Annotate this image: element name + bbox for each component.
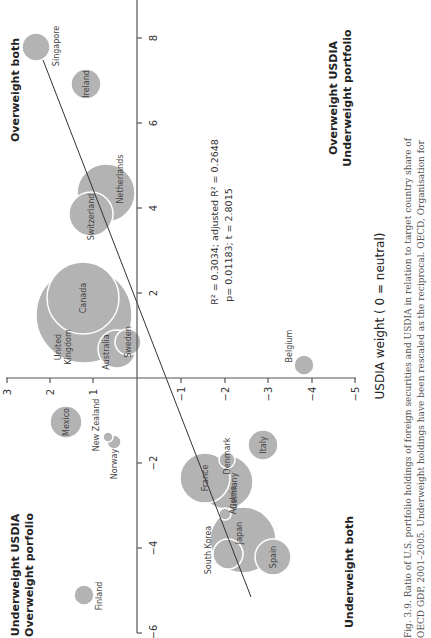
label-japan-text: Japan — [235, 522, 244, 545]
tick-label: −1 — [176, 387, 187, 402]
quadrant-overweight-usdia: Overweight USDIA — [327, 40, 340, 155]
tick-label: 1 — [88, 389, 99, 395]
tick-label: −5 — [350, 387, 361, 402]
label-denmark: Denmark — [223, 437, 232, 474]
label-switzerland: Switzerland — [87, 194, 96, 241]
bubble-belgium — [294, 355, 314, 375]
tick-label: 2 — [45, 389, 56, 395]
tick-label: 2 — [148, 290, 159, 296]
quadrant-overweight-portfolio: Overweight porfolio — [23, 513, 36, 637]
label-spain: Spain — [269, 546, 278, 568]
label-netherlands: Netherlands — [116, 155, 125, 204]
label-south-korea: South Korea — [204, 526, 213, 575]
quadrant-overweight-both: Overweight both — [9, 38, 22, 142]
label-canada: Canada — [79, 283, 88, 314]
label-italy: Italy — [259, 436, 268, 454]
bubble-finland — [74, 585, 94, 605]
quadrant-underweight-portfolio: Underweight portfolio — [341, 29, 354, 167]
tick-label: −4 — [148, 541, 159, 556]
label-finland: Finland — [95, 582, 104, 611]
label-united-kingdom-2: Kingdom — [64, 329, 73, 365]
label-mexico: Mexico — [62, 408, 71, 436]
usdia-ticks — [7, 378, 355, 383]
label-australia: Australia — [102, 334, 111, 369]
tick-label: 4 — [148, 205, 159, 211]
bubble-singapore — [22, 33, 50, 61]
quadrant-underweight-usdia: Underweight USDIA — [9, 513, 22, 636]
figure-caption: Fig. 3.9. Ratio of U.S. portfolio holdin… — [403, 137, 426, 638]
bubble-new-zealand — [103, 432, 113, 442]
caption-line-1: Fig. 3.9. Ratio of U.S. portfolio holdin… — [403, 137, 413, 638]
caption-line-2: OECD GDP, 2001–2005. Underweight holding… — [416, 140, 426, 638]
bubble-chart: 8 6 4 2 −2 −4 −6 3 2 1 −1 −2 −3 −4 −5 Si… — [0, 0, 431, 638]
tick-label: 6 — [148, 120, 159, 126]
label-singapore: Singapore — [52, 26, 61, 66]
tick-label: −4 — [307, 387, 318, 402]
tick-label: −2 — [220, 387, 231, 402]
tick-label: 8 — [148, 35, 159, 41]
usdia-axis-title: USDIA weight ( 0 = neutral) — [373, 233, 387, 400]
tick-label: −6 — [148, 625, 159, 638]
label-belgium: Belgium — [285, 329, 294, 362]
label-new-zealand: New Zealand — [92, 399, 101, 452]
label-ireland: Ireland — [82, 70, 91, 98]
tick-label: −2 — [148, 456, 159, 471]
label-germany-text: Germany — [230, 472, 239, 509]
label-france: France — [201, 465, 210, 492]
usdia-tick-labels: 3 2 1 −1 −2 −3 −4 −5 — [2, 387, 361, 402]
tick-label: 3 — [2, 389, 13, 395]
label-united-kingdom-1: United — [54, 334, 63, 360]
stats-line-1: R² = 0.3034; adjusted R² = 0.2648 — [209, 139, 220, 305]
tick-label: −3 — [263, 387, 274, 402]
stats-line-2: p= 0.01183; t = 2.8015 — [223, 188, 234, 301]
label-sweden: Sweden — [124, 326, 133, 358]
regression-stats: R² = 0.3034; adjusted R² = 0.2648 p= 0.0… — [209, 139, 234, 305]
quadrant-underweight-both: Underweight both — [343, 516, 356, 628]
label-norway: Norway — [110, 449, 119, 480]
